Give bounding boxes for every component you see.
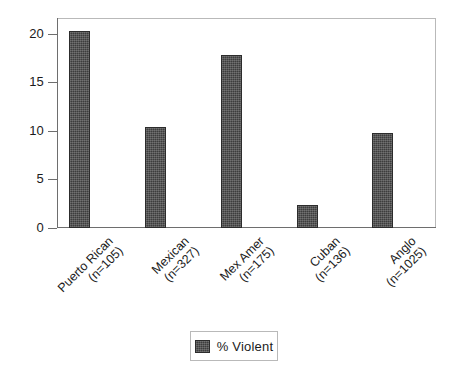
bar [145, 127, 166, 228]
y-tick-mark [48, 228, 57, 229]
y-tick-mark [48, 131, 57, 132]
y-tick-mark [48, 179, 57, 180]
y-tick-label: 10 [29, 123, 44, 138]
bar [297, 205, 318, 228]
bar [221, 55, 242, 228]
y-tick-label: 15 [29, 74, 44, 89]
legend-label-violent: % Violent [217, 339, 274, 354]
y-tick-label: 5 [37, 171, 44, 186]
bars-layer [57, 18, 436, 228]
legend: % Violent [190, 331, 278, 361]
y-tick-label: 0 [37, 220, 44, 235]
y-tick-mark [48, 34, 57, 35]
legend-swatch-violent [195, 340, 210, 353]
bar [69, 31, 90, 228]
y-tick-mark [48, 82, 57, 83]
y-tick-label: 20 [29, 26, 44, 41]
bar [372, 133, 393, 228]
bar-chart: 05101520 Puerto Rican(n=105)Mexican(n=32… [0, 0, 455, 381]
